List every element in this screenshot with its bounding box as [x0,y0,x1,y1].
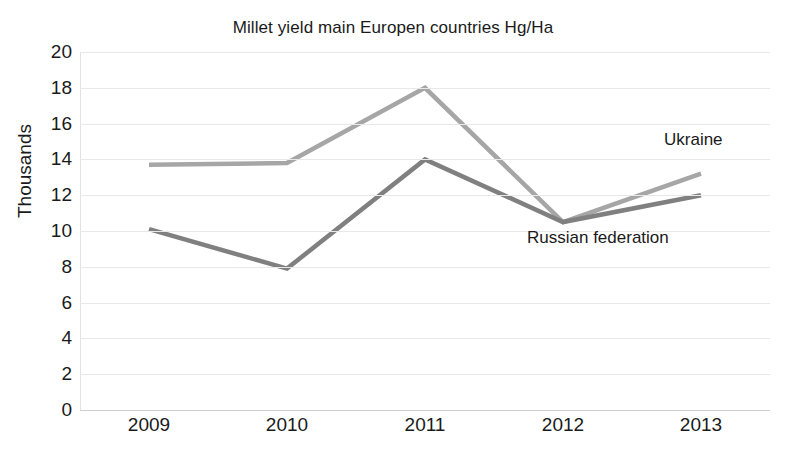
y-axis-tick-label: 0 [12,399,72,421]
series-label-ukraine: Ukraine [664,130,723,150]
y-axis-tick-label: 2 [12,363,72,385]
x-axis-tick-label: 2011 [405,414,446,436]
x-axis-tick-label: 2009 [128,414,170,436]
y-axis-tick-label: 6 [12,292,72,314]
y-axis-tick-labels: 02468101214161820 [8,52,72,410]
x-axis-tick-label: 2013 [680,414,722,436]
x-axis-tick-labels: 20092010201120122013 [80,414,770,444]
gridline [80,410,770,411]
y-axis-tick-label: 10 [12,220,72,242]
y-axis-tick-label: 18 [12,77,72,99]
gridline [80,52,770,53]
gridline [80,88,770,89]
gridline [80,267,770,268]
x-axis-tick-label: 2010 [266,414,308,436]
y-axis-tick-label: 14 [12,148,72,170]
series-line-ukraine [149,88,701,222]
y-axis-tick-label: 20 [12,41,72,63]
gridline [80,338,770,339]
series-label-russian-federation: Russian federation [527,228,669,248]
y-axis-tick-label: 16 [12,113,72,135]
y-axis-tick-label: 4 [12,327,72,349]
gridline [80,159,770,160]
x-axis-tick-label: 2012 [542,414,584,436]
chart-title: Millet yield main Europen countries Hg/H… [0,18,786,38]
chart-container: Millet yield main Europen countries Hg/H… [0,0,786,461]
gridline [80,195,770,196]
series-line-russian-federation [149,159,701,268]
gridline [80,374,770,375]
y-axis-tick-label: 8 [12,256,72,278]
gridline [80,303,770,304]
y-axis-tick-label: 12 [12,184,72,206]
gridline [80,124,770,125]
